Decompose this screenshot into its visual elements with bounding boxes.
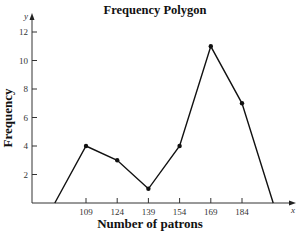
y-tick-label: 12	[19, 27, 28, 37]
data-point-marker	[146, 187, 150, 191]
y-tick-label: 10	[19, 56, 29, 66]
y-ticks: 24681012	[19, 27, 37, 180]
y-tick-label: 6	[24, 113, 29, 123]
data-point-marker	[209, 44, 213, 48]
y-tick-label: 4	[24, 141, 29, 151]
chart-title: Frequency Polygon	[104, 3, 207, 17]
data-point-marker	[115, 158, 119, 162]
x-axis-label: Number of patrons	[97, 216, 203, 231]
y-axis-arrow-icon	[30, 13, 35, 20]
y-tick-label: 8	[24, 84, 29, 94]
frequency-polygon-line	[55, 46, 273, 203]
data-points	[84, 44, 244, 191]
frequency-polygon-chart: Frequency Polygon y x 24681012 109124139…	[0, 0, 300, 231]
data-point-marker	[177, 144, 181, 148]
y-tick-label: 2	[24, 170, 29, 180]
x-axis-variable: x	[290, 205, 295, 215]
x-tick-label: 169	[204, 207, 218, 217]
x-tick-label: 184	[235, 207, 249, 217]
data-point-marker	[84, 144, 88, 148]
y-axis-variable: y	[23, 11, 28, 21]
x-tick-label: 109	[79, 207, 93, 217]
x-ticks: 109124139154169184	[79, 198, 249, 217]
y-axis-label: Frequency	[0, 88, 15, 147]
data-point-marker	[240, 101, 244, 105]
